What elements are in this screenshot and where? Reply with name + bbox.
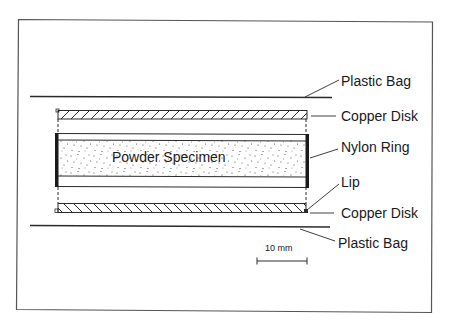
label-copper-disk-top: Copper Disk bbox=[341, 109, 418, 123]
copper-disk-top bbox=[56, 109, 307, 119]
leader-plastic-bag-bottom bbox=[300, 229, 335, 241]
label-plastic-bag-top: Plastic Bag bbox=[341, 74, 411, 88]
plastic-bag-top bbox=[30, 97, 332, 98]
scale-bar bbox=[257, 258, 307, 265]
label-plastic-bag-bottom: Plastic Bag bbox=[338, 236, 408, 250]
leader-nylon-ring bbox=[310, 149, 338, 158]
copper-disk-bottom bbox=[55, 204, 308, 214]
diagram-canvas: Plastic Bag Copper Disk Nylon Ring Lip C… bbox=[0, 0, 454, 328]
label-copper-disk-bottom: Copper Disk bbox=[341, 206, 418, 220]
label-powder-specimen: Powder Specimen bbox=[112, 150, 226, 164]
scale-bar-label: 10 mm bbox=[265, 244, 293, 253]
diagram-svg bbox=[0, 0, 454, 328]
leader-lip bbox=[307, 184, 339, 210]
plastic-bag-bottom bbox=[30, 226, 330, 228]
label-lip: Lip bbox=[341, 175, 360, 189]
label-nylon-ring: Nylon Ring bbox=[341, 140, 409, 154]
leader-plastic-bag-top bbox=[305, 80, 339, 97]
